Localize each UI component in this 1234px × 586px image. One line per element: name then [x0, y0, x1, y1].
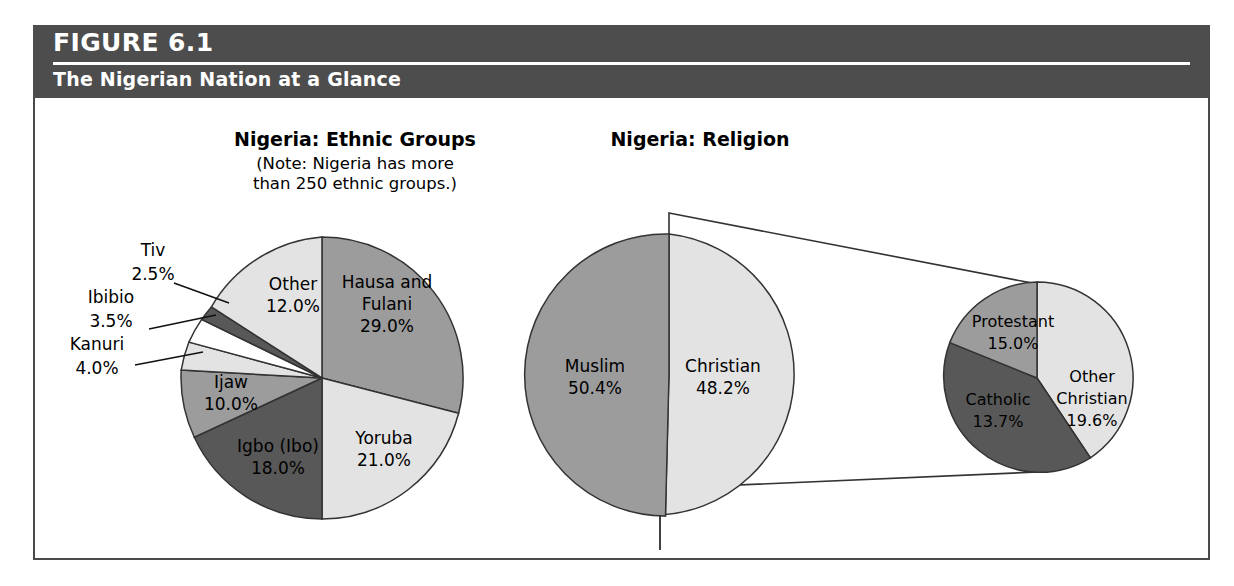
- christian-breakdown-pie: Protestant 15.0% Catholic 13.7% Other Ch…: [944, 282, 1133, 472]
- religion-pie: Muslim 50.4% Christian 48.2% Other 1.4%: [525, 234, 794, 556]
- label-tiv: Tiv: [140, 240, 166, 260]
- label-igbo-pct: 18.0%: [251, 458, 305, 478]
- figure-header-band: FIGURE 6.1 The Nigerian Nation at a Glan…: [33, 25, 1210, 98]
- header-divider-rule: [53, 62, 1190, 65]
- label-kanuri-pct: 4.0%: [75, 358, 118, 378]
- label-hausa-pct: 29.0%: [360, 316, 414, 336]
- label-kanuri: Kanuri: [70, 334, 125, 354]
- label-protestant: Protestant: [972, 312, 1054, 331]
- label-muslim: Muslim: [565, 356, 625, 376]
- label-other-christian-pct: 19.6%: [1067, 411, 1118, 430]
- label-other-christian-line1: Other: [1069, 367, 1115, 386]
- label-ibibio: Ibibio: [88, 287, 134, 307]
- label-christian-pct: 48.2%: [696, 378, 750, 398]
- figure-subtitle: The Nigerian Nation at a Glance: [53, 68, 401, 90]
- label-muslim-pct: 50.4%: [568, 378, 622, 398]
- figure-body-panel: Nigeria: Ethnic Groups (Note: Nigeria ha…: [33, 98, 1210, 560]
- figure-number: FIGURE 6.1: [53, 28, 214, 57]
- label-protestant-pct: 15.0%: [988, 334, 1039, 353]
- label-igbo: Igbo (Ibo): [237, 436, 319, 456]
- charts-svg-canvas: Hausa and Fulani 29.0% Yoruba 21.0% Igbo…: [35, 98, 1208, 556]
- label-other-christian-line2: Christian: [1056, 389, 1127, 408]
- label-other-ethnic-pct: 12.0%: [266, 296, 320, 316]
- figure-container: FIGURE 6.1 The Nigerian Nation at a Glan…: [33, 25, 1210, 560]
- label-tiv-pct: 2.5%: [131, 264, 174, 284]
- label-catholic: Catholic: [966, 390, 1031, 409]
- label-yoruba-pct: 21.0%: [357, 450, 411, 470]
- label-christian: Christian: [685, 356, 761, 376]
- label-catholic-pct: 13.7%: [973, 412, 1024, 431]
- label-yoruba: Yoruba: [354, 428, 413, 448]
- ethnic-groups-pie: Hausa and Fulani 29.0% Yoruba 21.0% Igbo…: [70, 237, 463, 519]
- label-hausa-line2: Fulani: [362, 294, 412, 314]
- label-ibibio-pct: 3.5%: [89, 311, 132, 331]
- label-ijaw: Ijaw: [214, 372, 248, 392]
- label-ijaw-pct: 10.0%: [204, 394, 258, 414]
- label-hausa-line1: Hausa and: [342, 272, 433, 292]
- label-other-ethnic: Other: [269, 274, 317, 294]
